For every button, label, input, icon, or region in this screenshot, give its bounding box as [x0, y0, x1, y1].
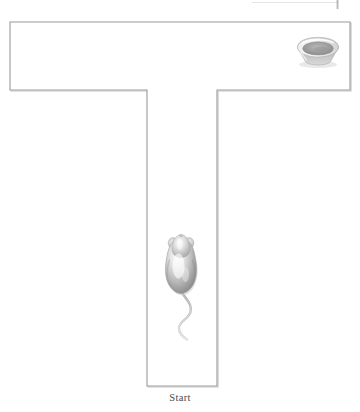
t-maze-figure: Start: [0, 0, 360, 412]
scan-line-artifact: [252, 2, 338, 3]
food-bowl-icon: [298, 37, 339, 68]
t-maze-drawing: [0, 0, 360, 412]
start-label: Start: [0, 391, 360, 405]
scan-mark-artifact: [336, 0, 339, 9]
